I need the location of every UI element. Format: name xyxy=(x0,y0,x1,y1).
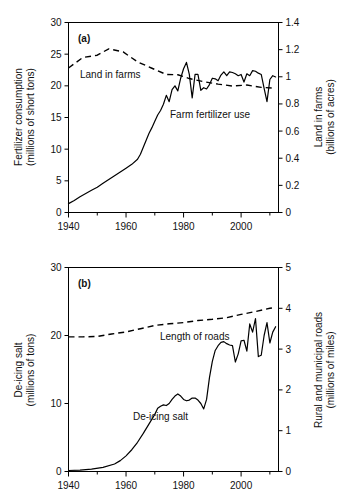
x-tick-label: 2000 xyxy=(230,221,253,232)
right-axis-title-b-line2: (millions of miles) xyxy=(325,331,336,408)
series-label-farm-fertilizer-use: Farm fertilizer use xyxy=(170,109,250,120)
left-tick-label: 5 xyxy=(56,175,62,186)
left-axis-title-a-line2: (millions of short tons) xyxy=(25,68,36,166)
left-axis-title-b-line2: (millions of tons) xyxy=(25,334,36,407)
left-tick-label: 15 xyxy=(50,112,62,123)
left-axis-ticks-b: 0102030 xyxy=(50,262,68,477)
panel-a-fertilizer-farmland: 051015202530 00.20.40.60.811.21.4 194019… xyxy=(0,0,344,250)
left-tick-label: 0 xyxy=(56,207,62,218)
left-tick-label: 30 xyxy=(50,17,62,28)
right-tick-label: 3 xyxy=(286,344,292,355)
series-label-land-in-farms: Land in farms xyxy=(80,69,141,80)
left-tick-label: 30 xyxy=(50,262,62,273)
x-axis-ticks-a: 1940196019802000 xyxy=(57,213,269,232)
x-tick-label: 1940 xyxy=(57,480,80,491)
two-panel-figure: 051015202530 00.20.40.60.811.21.4 194019… xyxy=(0,0,344,498)
right-axis-ticks-b: 012345 xyxy=(279,262,292,477)
right-tick-label: 0 xyxy=(286,207,292,218)
panel-a-svg: 051015202530 00.20.40.60.811.21.4 194019… xyxy=(0,0,344,250)
left-tick-label: 10 xyxy=(50,398,62,409)
left-axis-title-b-line1: De-icing salt xyxy=(13,342,24,397)
panel-b-axes xyxy=(69,268,279,472)
panel-b-svg: 0102030 012345 1940196019802000 (b) Leng… xyxy=(0,248,344,498)
panel-tag-a: (a) xyxy=(78,33,90,44)
right-tick-label: 1 xyxy=(286,71,292,82)
left-axis-title-a-line1: Fertilizer consumption xyxy=(13,68,24,166)
panel-b-salt-roads: 0102030 012345 1940196019802000 (b) Leng… xyxy=(0,248,344,498)
right-tick-label: 0.6 xyxy=(286,126,300,137)
series-label-length-of-roads: Length of roads xyxy=(160,331,230,342)
left-tick-label: 20 xyxy=(50,80,62,91)
right-tick-label: 0.8 xyxy=(286,98,300,109)
left-tick-label: 20 xyxy=(50,330,62,341)
plot-frame-b xyxy=(69,268,279,472)
right-axis-title-a-line1: Land in farms xyxy=(313,87,324,148)
left-tick-label: 10 xyxy=(50,144,62,155)
x-tick-label: 2000 xyxy=(230,480,253,491)
right-axis-ticks-a: 00.20.40.60.811.21.4 xyxy=(279,17,300,218)
right-tick-label: 1.2 xyxy=(286,44,300,55)
right-tick-label: 1 xyxy=(286,425,292,436)
right-tick-label: 4 xyxy=(286,303,292,314)
x-tick-label: 1980 xyxy=(172,480,195,491)
right-tick-label: 0 xyxy=(286,466,292,477)
right-tick-label: 2 xyxy=(286,384,292,395)
x-tick-label: 1980 xyxy=(172,221,195,232)
left-tick-label: 25 xyxy=(50,49,62,60)
x-tick-label: 1960 xyxy=(115,221,138,232)
farm-fertilizer-use-line xyxy=(69,62,276,203)
left-tick-label: 0 xyxy=(56,466,62,477)
right-tick-label: 5 xyxy=(286,262,292,273)
left-axis-ticks-a: 051015202530 xyxy=(50,17,68,218)
right-axis-title-b-line1: Rural and municipal roads xyxy=(313,312,324,428)
right-tick-label: 0.2 xyxy=(286,180,300,191)
series-label-de-icing-salt: De-icing salt xyxy=(133,411,188,422)
right-tick-label: 0.4 xyxy=(286,153,300,164)
x-tick-label: 1960 xyxy=(115,480,138,491)
x-axis-ticks-b: 1940196019802000 xyxy=(57,472,269,491)
x-tick-label: 1940 xyxy=(57,221,80,232)
right-tick-label: 1.4 xyxy=(286,17,300,28)
panel-tag-b: (b) xyxy=(78,278,91,289)
right-axis-title-a-line2: (billions of acres) xyxy=(325,79,336,155)
